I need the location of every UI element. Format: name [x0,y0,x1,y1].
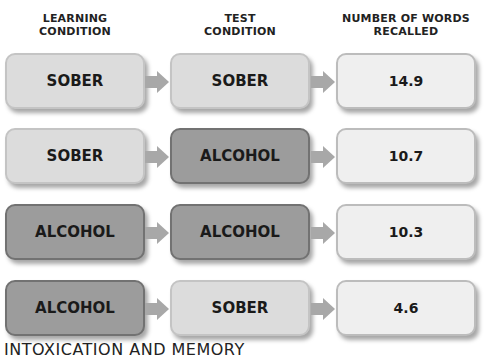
arrow-icon [145,222,169,244]
arrow-icon [311,146,335,168]
row1-result-box: 14.9 [336,53,476,109]
row4-result-value: 4.6 [394,300,419,316]
row3-result-box: 10.3 [336,204,476,260]
header-words-recalled: NUMBER OF WORDS RECALLED [336,12,476,38]
arrow-icon [145,146,169,168]
row1-learning-label: SOBER [47,72,104,90]
header-test-condition: TEST CONDITION [170,12,310,38]
row4-learning-box: ALCOHOL [5,280,145,336]
row1-test-label: SOBER [212,72,269,90]
arrow-icon [311,298,335,320]
arrow-icon [145,298,169,320]
header-recalled-text: NUMBER OF WORDS RECALLED [342,12,470,38]
row3-learning-box: ALCOHOL [5,204,145,260]
row2-result-value: 10.7 [389,148,424,164]
arrow-icon [311,71,335,93]
row3-result-value: 10.3 [389,224,424,240]
row4-test-label: SOBER [212,299,269,317]
row2-test-label: ALCOHOL [200,147,280,165]
row4-result-box: 4.6 [336,280,476,336]
row2-learning-label: SOBER [47,147,104,165]
row4-learning-label: ALCOHOL [35,299,115,317]
header-test-text: TEST CONDITION [204,12,276,38]
row4-test-box: SOBER [170,280,310,336]
row1-result-value: 14.9 [389,73,424,89]
row2-learning-box: SOBER [5,128,145,184]
arrow-icon [145,71,169,93]
row3-learning-label: ALCOHOL [35,223,115,241]
header-learning-text: LEARNING CONDITION [39,12,111,38]
figure-caption: INTOXICATION AND MEMORY [4,340,245,357]
row2-test-box: ALCOHOL [170,128,310,184]
row2-result-box: 10.7 [336,128,476,184]
row1-learning-box: SOBER [5,53,145,109]
row3-test-label: ALCOHOL [200,223,280,241]
row1-test-box: SOBER [170,53,310,109]
row3-test-box: ALCOHOL [170,204,310,260]
arrow-icon [311,222,335,244]
header-learning-condition: LEARNING CONDITION [5,12,145,38]
